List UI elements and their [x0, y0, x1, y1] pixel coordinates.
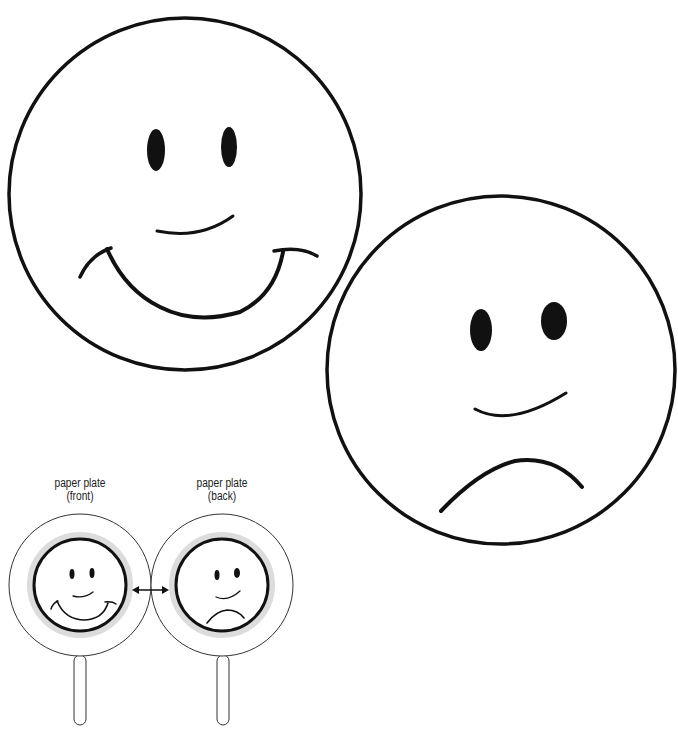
plate-front-label: paper plate (front) [42, 477, 119, 503]
plate-back-diagram [151, 514, 293, 725]
happy-face-right-eye [221, 127, 237, 167]
sad-face-left-eye [470, 309, 492, 351]
sad-face-right-eye [541, 302, 567, 340]
plate-back-label-line2: (back) [184, 490, 261, 503]
plate-front-stick [74, 655, 86, 725]
plate-back-face-outline [176, 539, 268, 631]
craft-sheet [0, 0, 678, 739]
plate-front-face-outline [34, 539, 126, 631]
plate-back-right-eye [234, 568, 240, 578]
happy-face-left-eye [147, 129, 165, 171]
plate-front-left-eye [70, 569, 75, 579]
happy-face [9, 18, 361, 370]
sad-face [327, 196, 675, 544]
sad-face-outline [327, 196, 675, 544]
plate-back-stick [217, 655, 229, 725]
plate-back-left-eye [215, 570, 220, 580]
plate-front-right-eye [90, 568, 95, 578]
plate-front-diagram [9, 514, 151, 725]
plate-front-label-line2: (front) [42, 490, 119, 503]
plate-back-label: paper plate (back) [184, 477, 261, 503]
